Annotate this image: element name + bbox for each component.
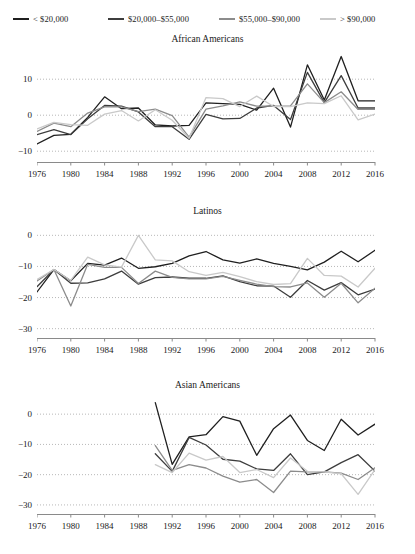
x-axis-tick-label: 1984 bbox=[96, 521, 114, 531]
y-axis-tick-label: 0 bbox=[0, 409, 32, 419]
legend-item-1[interactable]: $20,000–$55,000 bbox=[108, 14, 189, 24]
x-axis-tick-label: 2004 bbox=[265, 345, 283, 355]
legend-item-label: $55,000–$90,000 bbox=[239, 14, 300, 24]
x-axis-tick-label: 1992 bbox=[163, 345, 181, 355]
data-series-line bbox=[37, 264, 375, 306]
x-axis-tick-label: 2000 bbox=[231, 345, 249, 355]
legend-item-label: < $20,000 bbox=[33, 14, 68, 24]
x-axis-tick-label: 2008 bbox=[298, 521, 316, 531]
y-axis-tick-label: 0 bbox=[0, 230, 32, 240]
x-axis-tick-label: 2004 bbox=[265, 169, 283, 179]
figure-root: < $20,000$20,000–$55,000$55,000–$90,000>… bbox=[0, 0, 415, 554]
x-axis-tick-label: 2012 bbox=[332, 169, 350, 179]
chart-panel-latinos: Latinos0−10−20−3019761980198419881992199… bbox=[0, 206, 415, 364]
panel-title: Asian Americans bbox=[0, 380, 415, 390]
panel-title: Latinos bbox=[0, 206, 415, 216]
x-axis-tick-label: 1976 bbox=[28, 345, 46, 355]
x-axis-tick-label: 1996 bbox=[197, 521, 215, 531]
x-axis-tick-label: 1976 bbox=[28, 521, 46, 531]
plot-area bbox=[37, 226, 375, 338]
legend-swatch-icon bbox=[108, 18, 124, 20]
x-axis-tick-label: 2000 bbox=[231, 169, 249, 179]
y-axis-tick-label: −10 bbox=[0, 261, 32, 271]
chart-legend: < $20,000$20,000–$55,000$55,000–$90,000>… bbox=[0, 11, 415, 27]
chart-panel-african-americans: African Americans100−1019761980198419881… bbox=[0, 34, 415, 188]
y-axis-tick-label: 0 bbox=[0, 110, 32, 120]
x-axis-tick-label: 2012 bbox=[332, 521, 350, 531]
x-axis-tick-label: 2000 bbox=[231, 521, 249, 531]
x-axis-tick-label: 1988 bbox=[129, 521, 147, 531]
chart-panel-asian-americans: Asian Americans0−10−20−30197619801984198… bbox=[0, 376, 415, 540]
x-axis-tick-label: 2012 bbox=[332, 345, 350, 355]
legend-item-label: > $90,000 bbox=[340, 14, 375, 24]
x-axis-tick-label: 1984 bbox=[96, 169, 114, 179]
x-axis-tick-label: 1976 bbox=[28, 169, 46, 179]
plot-canvas bbox=[37, 54, 375, 162]
x-axis-tick-label: 2016 bbox=[366, 521, 384, 531]
y-axis-tick-label: −20 bbox=[0, 293, 32, 303]
legend-item-0[interactable]: < $20,000 bbox=[13, 14, 68, 24]
y-axis-tick-label: −20 bbox=[0, 470, 32, 480]
panel-title: African Americans bbox=[0, 34, 415, 44]
y-axis-tick-label: −30 bbox=[0, 500, 32, 510]
x-axis-tick-label: 1980 bbox=[62, 521, 80, 531]
data-series-line bbox=[37, 57, 375, 144]
legend-swatch-icon bbox=[219, 18, 235, 20]
x-axis-tick-label: 1992 bbox=[163, 169, 181, 179]
x-axis-tick-label: 2004 bbox=[265, 521, 283, 531]
legend-swatch-icon bbox=[320, 18, 336, 20]
y-axis-tick-label: −30 bbox=[0, 324, 32, 334]
plot-area bbox=[37, 54, 375, 162]
legend-item-2[interactable]: $55,000–$90,000 bbox=[219, 14, 300, 24]
y-axis-tick-label: 10 bbox=[0, 74, 32, 84]
y-axis-tick-label: −10 bbox=[0, 439, 32, 449]
plot-area bbox=[37, 396, 375, 514]
x-axis-tick-label: 1980 bbox=[62, 345, 80, 355]
x-axis-tick-label: 1996 bbox=[197, 169, 215, 179]
legend-swatch-icon bbox=[13, 18, 29, 20]
x-axis-tick-label: 1984 bbox=[96, 345, 114, 355]
x-axis-tick-label: 2016 bbox=[366, 345, 384, 355]
x-axis-tick-label: 2008 bbox=[298, 345, 316, 355]
plot-canvas bbox=[37, 226, 375, 338]
plot-canvas bbox=[37, 396, 375, 514]
x-axis-tick-label: 1988 bbox=[129, 345, 147, 355]
data-series-line bbox=[37, 270, 375, 298]
x-axis-tick-label: 1980 bbox=[62, 169, 80, 179]
x-axis-tick-label: 1992 bbox=[163, 521, 181, 531]
legend-item-label: $20,000–$55,000 bbox=[128, 14, 189, 24]
legend-item-3[interactable]: > $90,000 bbox=[320, 14, 375, 24]
x-axis-tick-label: 1988 bbox=[129, 169, 147, 179]
x-axis-tick-label: 2008 bbox=[298, 169, 316, 179]
x-axis-tick-label: 1996 bbox=[197, 345, 215, 355]
data-series-line bbox=[37, 84, 375, 137]
data-series-line bbox=[37, 72, 375, 139]
x-axis-tick-label: 2016 bbox=[366, 169, 384, 179]
y-axis-tick-label: −10 bbox=[0, 146, 32, 156]
